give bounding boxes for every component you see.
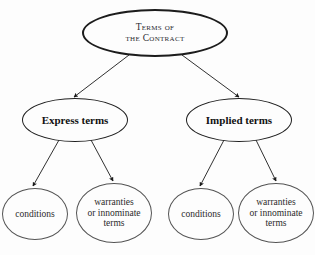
node-label: warranties or innominate terms	[85, 197, 142, 229]
edge-implied-to-conditions	[200, 140, 224, 186]
edge-root-to-implied	[182, 55, 239, 97]
node-terms-of-the-contract[interactable]: Terms of the Contract	[82, 9, 228, 57]
node-label: warranties or innominate terms	[247, 197, 304, 229]
node-label: Terms of the Contract	[124, 22, 187, 43]
node-implied-conditions[interactable]: conditions	[168, 188, 234, 240]
edge-root-to-express	[74, 55, 129, 97]
edge-express-to-conditions	[33, 140, 59, 186]
node-label: conditions	[13, 209, 57, 220]
node-implied-warranties[interactable]: warranties or innominate terms	[238, 183, 314, 243]
node-express-conditions[interactable]: conditions	[2, 188, 68, 240]
diagram-canvas: Terms of the Contract Express terms Impl…	[0, 0, 315, 255]
node-label: Express terms	[40, 114, 111, 126]
node-express-terms[interactable]: Express terms	[22, 98, 128, 142]
node-implied-terms[interactable]: Implied terms	[186, 98, 292, 142]
edge-express-to-warranties	[91, 140, 113, 181]
node-label: conditions	[179, 209, 223, 220]
node-express-warranties[interactable]: warranties or innominate terms	[76, 183, 152, 243]
node-label: Implied terms	[204, 114, 274, 126]
edge-implied-to-warranties	[256, 140, 276, 181]
